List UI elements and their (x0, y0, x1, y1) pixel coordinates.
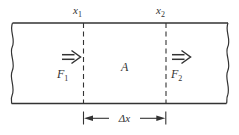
label-area: A (120, 60, 129, 74)
label-delta-x: Δx (118, 112, 130, 124)
f2-force-arrow-icon (172, 51, 191, 64)
label-f2: F2 (170, 67, 182, 83)
label-x2: x2 (155, 4, 165, 19)
bar-right-break-edge (227, 23, 229, 104)
label-f1-subscript: 1 (64, 74, 68, 83)
f1-force-arrow-icon (62, 51, 81, 64)
diagram-canvas: x1 x2 F1 F2 A Δx (0, 0, 239, 135)
label-x2-subscript: 2 (161, 10, 165, 19)
label-f2-subscript: 2 (178, 74, 182, 83)
label-x1: x1 (72, 4, 82, 19)
diagram-labels: x1 x2 F1 F2 A Δx (56, 4, 182, 124)
label-x1-subscript: 1 (78, 10, 82, 19)
label-f1: F1 (56, 67, 68, 83)
bar-section-diagram: x1 x2 F1 F2 A Δx (0, 0, 239, 135)
dimension-arrowhead-left-icon (84, 116, 93, 121)
bar-left-break-edge (11, 23, 13, 104)
dimension-arrowhead-right-icon (156, 116, 165, 121)
